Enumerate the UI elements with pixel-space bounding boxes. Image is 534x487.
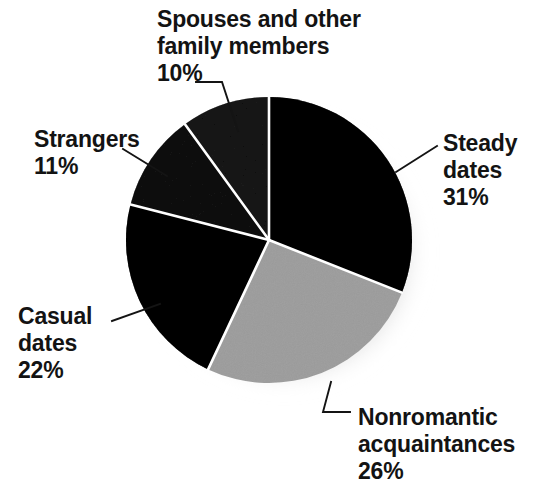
- pie-label-spouses-percent: 10%: [157, 60, 361, 87]
- pie-label-spouses-name-line1: Spouses and other: [157, 6, 361, 33]
- pie-label-casual-name-line2: dates: [18, 330, 92, 357]
- pie-label-steady-name-line2: dates: [443, 157, 517, 184]
- pie-label-steady-name-line1: Steady: [443, 130, 517, 157]
- pie-label-strangers-name: Strangers: [34, 126, 140, 153]
- pie-label-nonromantic-acquaintances: Nonromantic acquaintances 26%: [358, 404, 515, 485]
- pie-label-nonromantic-name-line1: Nonromantic: [358, 404, 515, 431]
- pie-label-steady-percent: 31%: [443, 184, 517, 211]
- pie-label-casual-dates: Casual dates 22%: [18, 303, 92, 384]
- pie-label-casual-percent: 22%: [18, 357, 92, 384]
- pie-label-strangers-percent: 11%: [34, 153, 140, 180]
- pie-label-spouses-name-line2: family members: [157, 33, 361, 60]
- pie-label-spouses-and-family: Spouses and other family members 10%: [157, 6, 361, 87]
- pie-chart-figure: Spouses and other family members 10% Str…: [0, 0, 534, 487]
- pie-label-strangers: Strangers 11%: [34, 126, 140, 180]
- pie-label-casual-name-line1: Casual: [18, 303, 92, 330]
- pie-label-steady-dates: Steady dates 31%: [443, 130, 517, 211]
- pie-label-nonromantic-name-line2: acquaintances: [358, 431, 515, 458]
- pie-label-nonromantic-percent: 26%: [358, 458, 515, 485]
- leader-line-steady: [396, 146, 437, 172]
